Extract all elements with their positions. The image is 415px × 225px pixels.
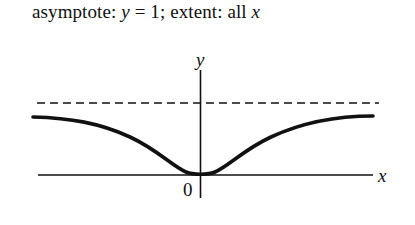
graph: y x 0	[0, 0, 415, 225]
origin-label: 0	[183, 179, 193, 200]
function-curve	[33, 116, 373, 174]
x-axis-label: x	[377, 165, 387, 186]
y-axis-label: y	[194, 49, 205, 70]
